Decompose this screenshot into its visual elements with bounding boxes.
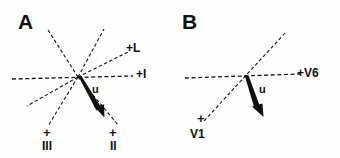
- axis-line-lead-V6: [185, 74, 300, 78]
- vector-u-arrowhead-a: [94, 105, 105, 118]
- panel-a-axes: [12, 29, 133, 126]
- axis-label-lead-V1: V1: [190, 128, 205, 140]
- axis-line-lead-L: [78, 52, 128, 77]
- axis-label-lead-V6: +V6: [297, 67, 319, 79]
- figure-canvas: [0, 0, 340, 158]
- vector-label-u-panel-a: u: [92, 84, 99, 95]
- axis-label-lead-L: +L: [126, 42, 140, 54]
- axis-label-lead-I: +I: [136, 68, 146, 80]
- plus-marker-lead-V1: +: [197, 112, 205, 125]
- axis-label-lead-III: III: [42, 140, 52, 152]
- panel-b-vector-u: [245, 75, 264, 117]
- axis-line-upper-left: [48, 30, 78, 77]
- panel-b-axes: [185, 33, 300, 122]
- vector-u-shaft-b: [245, 75, 261, 109]
- ecg-axis-figure: A B +I +L + II + III u +V6 + V1 u: [0, 0, 340, 158]
- plus-marker-lead-III: +: [43, 126, 51, 139]
- plus-marker-lead-II: +: [109, 126, 117, 139]
- axis-label-lead-II: II: [110, 140, 117, 152]
- axis-line-lead-I: [12, 76, 133, 79]
- panel-letter-b: B: [182, 11, 197, 32]
- panel-letter-a: A: [18, 11, 33, 32]
- axis-line-lead-III: [48, 77, 78, 126]
- axis-line-upper-right: [78, 29, 104, 77]
- axis-line-lower-left: [27, 77, 78, 106]
- vector-label-u-panel-b: u: [259, 84, 266, 95]
